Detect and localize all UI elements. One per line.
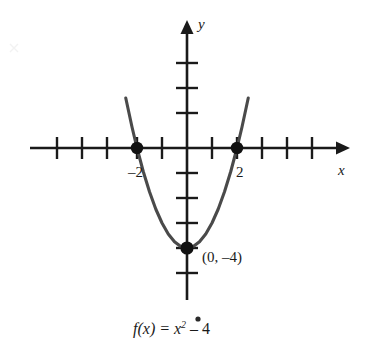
vertex-coordinate-label: (0, –4): [202, 250, 242, 265]
x-intercept-positive-label: 2: [236, 165, 244, 180]
point-root-negative: [131, 142, 143, 154]
x-axis-label: x: [338, 163, 345, 178]
function-caption-tail: – 4: [186, 320, 210, 337]
function-caption-base: f(x) = x: [133, 320, 181, 337]
function-caption: f(x) = x2 – 4: [133, 320, 210, 337]
y-axis-label: y: [198, 17, 205, 32]
parabola-figure: [0, 0, 366, 352]
scan-artifact: [10, 44, 18, 52]
point-vertex: [180, 241, 193, 254]
x-axis: [30, 142, 350, 155]
x-intercept-negative-label: –2: [128, 165, 143, 180]
point-root-positive: [231, 142, 243, 154]
